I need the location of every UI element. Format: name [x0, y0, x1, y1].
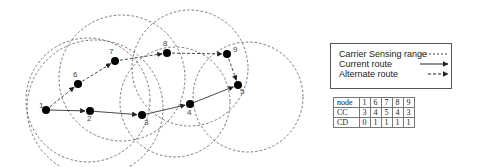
node-label-8: 8 [163, 39, 168, 48]
node-6 [74, 80, 82, 88]
node-metrics-table: node 1 6 7 8 9 CC 3 4 5 4 3 CD 0 1 1 1 1 [333, 97, 415, 128]
table-cell: 3 [359, 108, 370, 118]
table-cell: 4 [392, 108, 403, 118]
dashed-line-icon [419, 50, 451, 58]
header-cell: 9 [403, 98, 414, 108]
solid-arrow-icon [418, 60, 451, 68]
node-label-9: 9 [233, 45, 238, 54]
node-label-2: 2 [87, 114, 92, 123]
row-label: CC [334, 108, 360, 118]
table-cell: 1 [392, 118, 403, 128]
table-cell: 4 [370, 108, 381, 118]
header-cell: 8 [392, 98, 403, 108]
legend-carrier-sensing: Carrier Sensing range [339, 49, 451, 59]
legend-alternate-route: Alternate route [339, 69, 451, 79]
sensing-range-node-6 [59, 15, 185, 141]
node-7 [111, 57, 119, 65]
node-label-5: 5 [240, 87, 245, 96]
sensing-range-node-1 [27, 40, 163, 167]
alternate-route-edge-9-5 [227, 54, 236, 80]
legend-current-route: Current route [339, 59, 451, 69]
current-route-edge-1-2 [46, 110, 85, 111]
current-route-edge-3-4 [142, 105, 185, 115]
table-row-cd: CD 0 1 1 1 1 [334, 118, 415, 128]
header-label: node [334, 98, 360, 108]
row-label: CD [334, 118, 360, 128]
table-header-row: node 1 6 7 8 9 [334, 98, 415, 108]
alternate-route-edge-8-9 [167, 53, 222, 54]
table-cell: 1 [370, 118, 381, 128]
table-cell: 1 [381, 118, 392, 128]
dashed-arrow-icon [418, 70, 451, 78]
table-cell: 3 [403, 108, 414, 118]
sensing-range-node-9 [193, 42, 303, 152]
sensing-range-node-3 [120, 47, 230, 157]
header-cell: 6 [370, 98, 381, 108]
alternate-route-edge-7-8 [115, 54, 162, 61]
node-label-1: 1 [39, 101, 44, 110]
table-cell: 0 [359, 118, 370, 128]
node-label-6: 6 [73, 70, 78, 79]
node-label-7: 7 [109, 47, 114, 56]
current-route-edge-2-3 [90, 111, 137, 115]
node-9 [223, 50, 231, 58]
header-cell: 7 [381, 98, 392, 108]
table-cell: 1 [403, 118, 414, 128]
node-label-3: 3 [144, 118, 149, 127]
sensing-range-node-2 [26, 38, 150, 162]
node-4 [186, 100, 194, 108]
legend-box: Carrier Sensing range Current route Alte… [330, 43, 452, 89]
table-cell: 5 [381, 108, 392, 118]
table-row-cc: CC 3 4 5 4 3 [334, 108, 415, 118]
header-cell: 1 [359, 98, 370, 108]
node-label-4: 4 [187, 108, 192, 117]
alternate-route-edge-6-7 [78, 64, 111, 84]
node-8 [163, 49, 171, 57]
current-route-edge-4-5 [190, 87, 233, 104]
